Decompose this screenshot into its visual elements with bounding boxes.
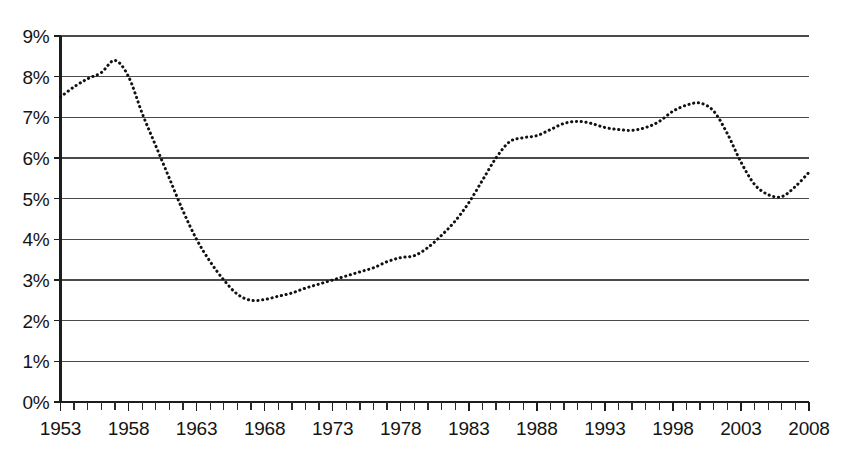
y-axis-tick-label: 4% — [22, 229, 49, 250]
x-axis-tick-label: 1973 — [312, 418, 353, 439]
x-axis-tick-label: 1993 — [584, 418, 625, 439]
y-axis-tick-label: 8% — [22, 67, 49, 88]
line-chart: 0%1%2%3%4%5%6%7%8%9% 1953195819631968197… — [0, 0, 842, 454]
x-axis-tick-label: 1978 — [380, 418, 421, 439]
x-axis-tick-label: 2008 — [788, 418, 829, 439]
y-axis-tick-label: 6% — [22, 148, 49, 169]
chart-background — [0, 0, 842, 454]
x-axis-tick-label: 1968 — [244, 418, 285, 439]
x-axis-tick-label: 1983 — [448, 418, 489, 439]
y-axis-tick-label: 1% — [22, 351, 49, 372]
y-axis-tick-label: 3% — [22, 270, 49, 291]
y-axis-tick-label: 5% — [22, 189, 49, 210]
x-axis-tick-label: 1953 — [40, 418, 81, 439]
x-axis-tick-label: 1958 — [108, 418, 149, 439]
x-axis-tick-label: 1963 — [176, 418, 217, 439]
x-axis-tick-label: 1998 — [652, 418, 693, 439]
y-axis-tick-label: 2% — [22, 311, 49, 332]
y-axis-tick-label: 9% — [22, 26, 49, 47]
chart-container: 0%1%2%3%4%5%6%7%8%9% 1953195819631968197… — [0, 0, 842, 454]
y-axis-tick-label: 0% — [22, 392, 49, 413]
y-axis-tick-label: 7% — [22, 107, 49, 128]
x-axis-tick-label: 2003 — [720, 418, 761, 439]
x-axis-tick-label: 1988 — [516, 418, 557, 439]
